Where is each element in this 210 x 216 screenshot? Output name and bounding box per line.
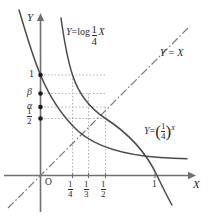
y-tick-label-half: 12 xyxy=(27,107,32,126)
y-half-den: 2 xyxy=(27,116,32,126)
x-tick-label-half: 12 xyxy=(101,180,106,199)
y-axis-label: Y xyxy=(27,12,33,23)
origin-label: O xyxy=(45,178,52,188)
identity-line-label: Y = X xyxy=(160,48,183,58)
log-curve-label: Y=log 14 X xyxy=(66,24,105,47)
y-axis-arrow xyxy=(37,13,44,21)
log-base-num: 1 xyxy=(92,24,98,35)
y-dot-one xyxy=(38,73,43,78)
log-label-base: 14 xyxy=(90,31,99,38)
y-tick-label-beta: β xyxy=(27,87,32,97)
exp-label-exponent: X xyxy=(171,124,175,131)
x-axis-label: X xyxy=(193,179,200,190)
x-quarter-den: 4 xyxy=(68,189,73,199)
x-half-den: 2 xyxy=(101,189,106,199)
x-half-num: 1 xyxy=(101,180,106,189)
x-third-den: 3 xyxy=(84,189,89,199)
x-tick-label-one: 1 xyxy=(152,180,157,190)
log-label-arg: X xyxy=(99,26,105,37)
x-quarter-num: 1 xyxy=(68,180,73,189)
x-tick-label-third: 13 xyxy=(84,180,89,199)
log-base-den: 4 xyxy=(92,35,98,47)
math-figure: Y X O Y=log 14 X Y = X Y=( 14 )X 1 β α 1… xyxy=(0,0,210,216)
y-half-num: 1 xyxy=(27,107,32,116)
y-dot-beta xyxy=(38,91,43,96)
x-third-num: 1 xyxy=(84,180,89,189)
y-tick-label-one: 1 xyxy=(29,69,34,79)
y-dot-alpha xyxy=(38,105,43,110)
y-dot-half xyxy=(38,116,43,121)
log-label-fn: log xyxy=(77,26,90,37)
x-tick-label-quarter: 14 xyxy=(68,180,73,199)
exp-curve-label: Y=( 14 )X xyxy=(144,122,175,141)
